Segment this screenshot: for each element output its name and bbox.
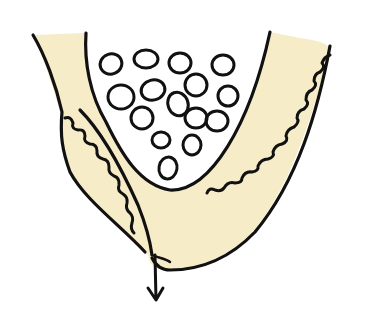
gland-illustration bbox=[0, 0, 391, 330]
diagram-canvas: Cup-shaped tissue layer containing a clu… bbox=[0, 0, 391, 330]
